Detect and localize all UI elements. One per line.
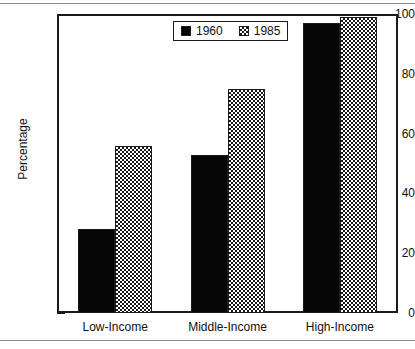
page-rule-top [0,3,415,4]
x-tick-label-middle-income: Middle-Income [168,320,288,334]
bar-middle-income-1985 [228,89,265,313]
bar-middle-income-1960 [191,155,228,313]
legend-item-1985: 1985 [239,25,281,37]
legend-label: 1960 [196,25,223,37]
y-axis-title: Percentage [16,99,30,199]
x-tick-label-low-income: Low-Income [55,320,175,334]
x-tick-label-high-income: High-Income [280,320,400,334]
chart-page: Percentage 020406080100 Low-IncomeMiddle… [0,0,415,349]
bar-low-income-1960 [78,229,115,313]
legend-solid-square-icon [181,26,191,36]
legend-checkered-square-icon [239,26,249,36]
legend-item-1960: 1960 [181,25,223,37]
page-rule-bottom [0,340,415,341]
chart-legend: 19601985 [173,21,288,41]
legend-label: 1985 [254,25,281,37]
plot-area [59,16,396,313]
bar-low-income-1985 [115,146,152,313]
bar-high-income-1985 [340,17,377,313]
bar-high-income-1960 [303,23,340,313]
y-tick-major [57,313,65,314]
